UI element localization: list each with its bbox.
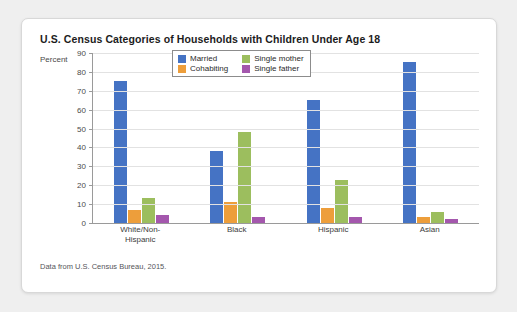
bars [383, 53, 480, 223]
y-axis-tick-labels: 0102030405060708090 [40, 53, 90, 223]
y-axis-tick-20: 20 [77, 181, 86, 190]
gridline-40 [93, 147, 479, 148]
y-axis-tick-0: 0 [82, 219, 86, 228]
x-axis-label-hispanic: Hispanic [285, 225, 382, 245]
tick-mark-20 [89, 185, 93, 186]
bars [93, 53, 190, 223]
bar-group-white-non-hispanic [93, 53, 190, 223]
legend-swatch-icon [242, 55, 250, 63]
page-background: U.S. Census Categories of Households wit… [0, 0, 517, 312]
bar-single-mother[interactable] [431, 212, 444, 223]
y-axis-tick-90: 90 [77, 49, 86, 58]
legend-label: Cohabiting [190, 64, 228, 73]
legend-label: Married [190, 54, 217, 63]
bar-single-mother[interactable] [142, 198, 155, 223]
gridline-10 [93, 204, 479, 205]
chart-title: U.S. Census Categories of Households wit… [40, 33, 380, 45]
plot-canvas [92, 53, 479, 224]
bar-group-black [190, 53, 287, 223]
legend-swatch-icon [178, 65, 186, 73]
y-axis-tick-80: 80 [77, 67, 86, 76]
bar-single-father[interactable] [349, 217, 362, 223]
bar-single-mother[interactable] [238, 132, 251, 223]
tick-mark-10 [89, 204, 93, 205]
tick-mark-70 [89, 91, 93, 92]
tick-mark-40 [89, 147, 93, 148]
bar-single-father[interactable] [252, 217, 265, 223]
tick-mark-50 [89, 129, 93, 130]
bar-married[interactable] [210, 151, 223, 223]
bar-cohabiting[interactable] [128, 210, 141, 223]
x-axis-tick-labels: White/Non-HispanicBlackHispanicAsian [92, 225, 478, 245]
x-axis-label-white-non-hispanic: White/Non-Hispanic [92, 225, 189, 245]
tick-mark-0 [89, 223, 93, 224]
bar-cohabiting[interactable] [417, 217, 430, 223]
gridline-60 [93, 110, 479, 111]
chart-card: U.S. Census Categories of Households wit… [21, 18, 497, 293]
legend-item-cohabiting[interactable]: Cohabiting [178, 64, 228, 73]
gridline-20 [93, 185, 479, 186]
bar-married[interactable] [114, 81, 127, 223]
y-axis-tick-40: 40 [77, 143, 86, 152]
y-axis-tick-10: 10 [77, 200, 86, 209]
x-axis-label-asian: Asian [382, 225, 479, 245]
y-axis-tick-70: 70 [77, 86, 86, 95]
source-note: Data from U.S. Census Bureau, 2015. [40, 262, 166, 271]
tick-mark-80 [89, 72, 93, 73]
bar-single-father[interactable] [156, 215, 169, 223]
gridline-50 [93, 129, 479, 130]
bar-groups [93, 53, 479, 223]
bar-cohabiting[interactable] [321, 208, 334, 223]
legend-item-single-father[interactable]: Single father [242, 64, 303, 73]
bar-group-asian [383, 53, 480, 223]
legend-swatch-icon [242, 65, 250, 73]
y-axis-tick-60: 60 [77, 105, 86, 114]
bar-single-father[interactable] [445, 219, 458, 223]
bar-cohabiting[interactable] [224, 202, 237, 223]
gridline-30 [93, 166, 479, 167]
y-axis-tick-30: 30 [77, 162, 86, 171]
legend-item-single-mother[interactable]: Single mother [242, 54, 303, 63]
plot-area: 0102030405060708090 White/Non-HispanicBl… [40, 53, 480, 253]
bar-group-hispanic [286, 53, 383, 223]
tick-mark-30 [89, 166, 93, 167]
legend-label: Single mother [254, 54, 303, 63]
chart-legend: MarriedSingle motherCohabitingSingle fat… [172, 50, 311, 77]
legend-label: Single father [254, 64, 299, 73]
legend-swatch-icon [178, 55, 186, 63]
y-axis-tick-50: 50 [77, 124, 86, 133]
bar-married[interactable] [403, 62, 416, 223]
x-axis-label-black: Black [189, 225, 286, 245]
bars [190, 53, 287, 223]
bars [286, 53, 383, 223]
gridline-70 [93, 91, 479, 92]
tick-mark-90 [89, 53, 93, 54]
legend-item-married[interactable]: Married [178, 54, 228, 63]
tick-mark-60 [89, 110, 93, 111]
